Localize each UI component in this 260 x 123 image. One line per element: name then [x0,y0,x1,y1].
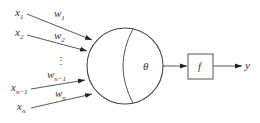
input-label-1: x1 [14,6,23,21]
neuron-inner-arc [123,29,133,103]
output-label: y [244,59,250,71]
neuron-diagram: x1 x2 xn−1 xn w1 w2 wn−1 wn ⋮ θ f y [0,0,260,123]
neuron-circle [87,28,163,104]
threshold-label: θ [143,60,149,72]
weight-label-1: w1 [54,7,65,22]
weight-label-n: wn [55,87,66,102]
diagram-canvas: x1 x2 xn−1 xn w1 w2 wn−1 wn ⋮ θ f y [0,0,260,123]
input-label-n: xn [16,100,26,115]
weight-label-2: w2 [54,29,65,44]
weight-label-n-1: wn−1 [47,68,66,83]
ellipsis: ⋮ [56,55,66,66]
input-label-n-1: xn−1 [10,81,28,96]
activation-label: f [198,60,203,72]
input-label-2: x2 [14,26,24,41]
